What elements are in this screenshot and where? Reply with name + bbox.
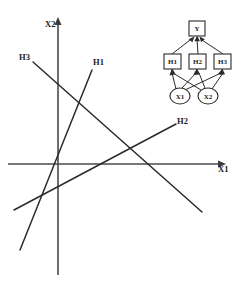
boundary-line-h1	[20, 70, 92, 250]
network-node-y: Y	[189, 21, 205, 36]
output-node-label: Y	[194, 25, 199, 33]
edge-x1-h1	[172, 73, 176, 89]
network-edges-hidden-output	[172, 36, 223, 54]
edge-x2-h1	[173, 73, 201, 90]
input-node-x2-label: X2	[204, 93, 213, 101]
edge-h3-y	[202, 40, 223, 54]
network-node-h2: H2	[189, 54, 206, 69]
boundary-label-h2: H2	[177, 116, 188, 126]
edge-h1-y	[172, 40, 190, 54]
network-node-x1: X1	[170, 88, 190, 104]
arrowhead-h1-y	[189, 37, 195, 43]
hidden-node-h2-label: H2	[193, 58, 202, 66]
boundary-label-h1: H1	[93, 57, 104, 67]
network-node-x2: X2	[198, 88, 218, 104]
edge-x1-h3	[185, 73, 221, 90]
input-node-x1-label: X1	[176, 93, 185, 101]
edge-x2-h3	[212, 73, 223, 89]
network-diagram: Y H1 H2 H3 X1 X2	[164, 21, 231, 104]
network-edges-input-hidden	[170, 69, 225, 91]
x-axis-label: X1	[218, 164, 229, 174]
diagram-svg: X2 X1 H3 H1 H2	[0, 0, 247, 290]
network-node-h3: H3	[214, 54, 231, 69]
boundary-label-h3: H3	[19, 52, 30, 62]
hidden-node-h3-label: H3	[218, 58, 227, 66]
figure-canvas: X2 X1 H3 H1 H2	[0, 0, 247, 290]
hidden-node-h1-label: H1	[168, 58, 177, 66]
y-axis-label: X2	[45, 19, 56, 29]
network-node-h1: H1	[164, 54, 181, 69]
